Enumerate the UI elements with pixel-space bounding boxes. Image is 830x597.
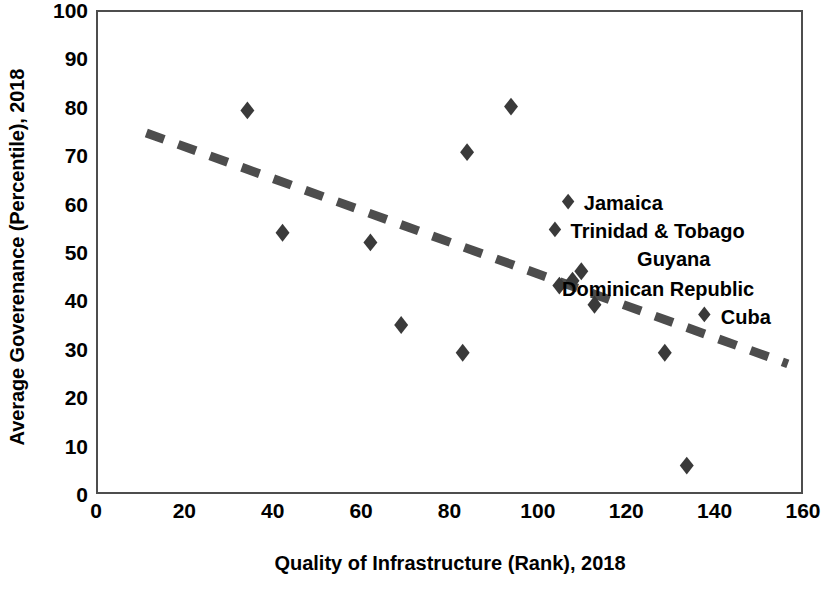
y-tick-label: 30 [14, 338, 88, 359]
x-tick-label: 40 [243, 500, 303, 521]
x-axis-tick-labels: 020406080100120140160 [96, 500, 803, 530]
y-axis-tick-labels: 0102030405060708090100 [8, 10, 88, 494]
annotation-marker [698, 306, 710, 322]
x-tick-label: 160 [773, 500, 830, 521]
y-tick-label: 50 [14, 242, 88, 263]
data-point-marker [363, 233, 377, 251]
annotation-marker [562, 194, 574, 210]
annotation-label: Jamaica [584, 193, 663, 213]
data-point-marker [240, 101, 254, 119]
x-tick-label: 60 [331, 500, 391, 521]
x-axis-title: Quality of Infrastructure (Rank), 2018 [96, 552, 804, 575]
scatter-chart-figure: Average Goverenance (Percentile), 2018 0… [0, 0, 830, 597]
y-tick-label: 10 [14, 435, 88, 456]
y-tick-label: 90 [14, 48, 88, 69]
y-tick-label: 40 [14, 290, 88, 311]
x-tick-label: 0 [66, 500, 126, 521]
data-point-marker [276, 224, 290, 242]
y-tick-label: 80 [14, 96, 88, 117]
annotation-label: Guyana [637, 249, 710, 269]
y-tick-label: 60 [14, 193, 88, 214]
data-point-marker [460, 143, 474, 161]
annotation-marker [549, 222, 561, 238]
annotation-label: Trinidad & Tobago [571, 221, 745, 241]
data-point-marker [658, 344, 672, 362]
x-tick-label: 20 [154, 500, 214, 521]
x-tick-label: 120 [596, 500, 656, 521]
x-tick-label: 140 [685, 500, 745, 521]
x-tick-label: 80 [420, 500, 480, 521]
x-tick-label: 100 [508, 500, 568, 521]
y-tick-label: 100 [14, 0, 88, 21]
y-tick-label: 70 [14, 145, 88, 166]
data-point-marker [504, 98, 518, 116]
annotation-label: Cuba [721, 307, 771, 327]
data-point-marker [456, 344, 470, 362]
data-point-marker [394, 316, 408, 334]
y-tick-label: 20 [14, 387, 88, 408]
plot-area: JamaicaTrinidad & TobagoGuyanaDominican … [96, 10, 803, 494]
annotation-label: Dominican Republic [562, 279, 754, 299]
data-point-marker [680, 457, 694, 475]
